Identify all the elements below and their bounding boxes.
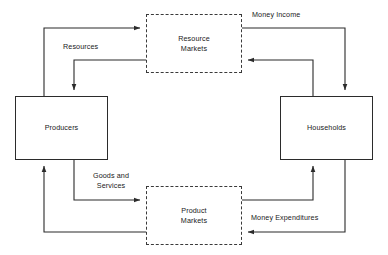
edge-money-income-return-path	[248, 60, 313, 96]
node-product-markets-label: Product Markets	[181, 206, 207, 225]
edge-product-to-households-path	[242, 166, 313, 200]
node-resource-markets-label: Resource Markets	[178, 34, 210, 53]
edge-label-money-expenditures: Money Expenditures	[250, 213, 319, 223]
node-resource-markets[interactable]: Resource Markets	[146, 14, 242, 73]
edge-resources-return-path	[74, 60, 146, 90]
node-households-label: Households	[307, 123, 346, 133]
edge-resources-path	[44, 28, 140, 96]
edge-label-money-income: Money Income	[251, 10, 301, 20]
node-households[interactable]: Households	[280, 96, 373, 160]
node-producers-label: Producers	[45, 123, 79, 133]
circular-flow-diagram: Producers Households Resource Markets Pr…	[0, 0, 388, 255]
node-product-markets[interactable]: Product Markets	[146, 186, 242, 245]
edge-money-income-path	[242, 28, 345, 90]
edge-label-resources: Resources	[62, 42, 99, 52]
node-producers[interactable]: Producers	[15, 96, 108, 160]
edge-label-goods-and-services: Goods and Services	[79, 171, 143, 190]
